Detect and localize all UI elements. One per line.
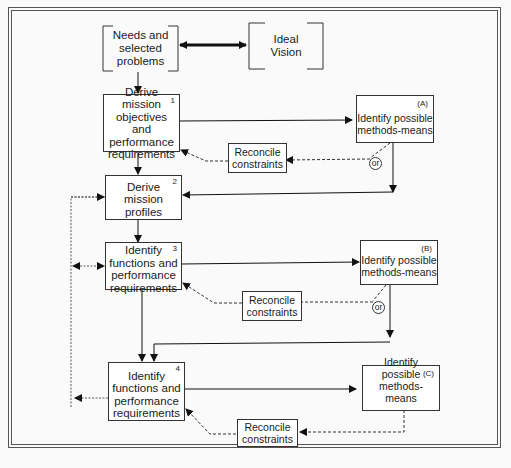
ideal-vision-box: Ideal Vision	[248, 22, 324, 70]
methods-tag: (A)	[417, 99, 428, 108]
step-number: 3	[173, 245, 177, 253]
or-marker-b: or	[372, 301, 385, 314]
reconcile-label: Reconcile constraints	[230, 146, 286, 170]
needs-box: Needs and selected problems	[102, 25, 179, 72]
reconcile-1-box: Reconcile constraints	[228, 143, 287, 173]
reconcile-label: Reconcile constraints	[244, 294, 300, 318]
or-marker-a: or	[369, 157, 382, 170]
bracket-frame	[248, 22, 324, 70]
methods-b-box: (B) Identify possible methods-means	[360, 240, 438, 285]
step-2-box: 2 Derive mission profiles	[105, 175, 182, 220]
methods-c-box: (C) Identify possible methods-means	[362, 365, 440, 411]
reconcile-label: Reconcile constraints	[240, 421, 296, 445]
step-label: Identify functions and performance requi…	[109, 364, 184, 420]
step-label: Derive mission profiles	[113, 177, 175, 219]
methods-tag: (B)	[421, 244, 432, 253]
step-label: Derive mission objectives and performanc…	[107, 86, 177, 161]
step-4-box: 4 Identify functions and performance req…	[108, 362, 185, 421]
methods-tag: (C)	[423, 369, 434, 378]
step-3-box: 3 Identify functions and performance req…	[105, 242, 182, 290]
step-number: 1	[171, 97, 175, 105]
step-number: 4	[176, 365, 180, 373]
reconcile-2-box: Reconcile constraints	[242, 291, 302, 321]
methods-label: Identify possible methods-means	[365, 356, 437, 404]
methods-label: Identify possible methods-means	[361, 254, 437, 278]
methods-a-box: (A) Identify possible methods-means	[356, 95, 434, 143]
reconcile-3-box: Reconcile constraints	[237, 419, 298, 447]
methods-label: Identify possible methods-means	[357, 112, 433, 136]
step-label: Identify functions and performance requi…	[106, 238, 181, 294]
bracket-frame	[102, 25, 179, 72]
step-1-box: 1 Derive mission objectives and performa…	[103, 94, 180, 152]
step-number: 2	[173, 178, 177, 186]
